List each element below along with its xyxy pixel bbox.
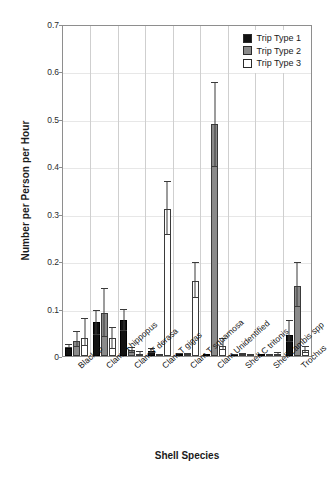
error-bar bbox=[96, 310, 97, 335]
error-bar-cap bbox=[101, 336, 108, 337]
bar-group bbox=[91, 26, 119, 356]
error-bar-cap bbox=[109, 327, 116, 328]
y-axis-title: Number per Person per Hour bbox=[20, 81, 31, 301]
error-bar-cap bbox=[93, 310, 100, 311]
x-axis-ticks: BlacklipClam H hippopusClam T derasaClam… bbox=[62, 358, 312, 428]
error-bar bbox=[214, 82, 215, 167]
error-bar bbox=[305, 346, 306, 353]
error-bar-cap bbox=[109, 348, 116, 349]
error-bar-cap bbox=[120, 330, 127, 331]
bar-group bbox=[118, 26, 146, 356]
error-bar-cap bbox=[211, 166, 218, 167]
bar-group bbox=[201, 26, 229, 356]
bar-group bbox=[173, 26, 201, 356]
error-bar-cap bbox=[101, 288, 108, 289]
legend-label: Trip Type 1 bbox=[256, 32, 301, 45]
legend-item-trip-type-3: Trip Type 3 bbox=[243, 57, 301, 70]
error-bar bbox=[104, 288, 105, 337]
error-bar-cap bbox=[302, 352, 309, 353]
legend-swatch-icon bbox=[243, 59, 252, 68]
bar-group bbox=[146, 26, 174, 356]
error-bar bbox=[68, 344, 69, 348]
bar-group bbox=[256, 26, 284, 356]
error-bar bbox=[297, 262, 298, 308]
error-bar-cap bbox=[73, 331, 80, 332]
error-bar-cap bbox=[120, 309, 127, 310]
error-bar-cap bbox=[294, 262, 301, 263]
error-bar bbox=[76, 331, 77, 347]
error-bar-cap bbox=[266, 355, 273, 356]
y-tick-label: 0.5 bbox=[31, 115, 59, 125]
error-bar-cap bbox=[156, 355, 163, 356]
bar-wrapper bbox=[156, 354, 163, 356]
error-bar bbox=[84, 318, 85, 346]
error-bar bbox=[159, 354, 160, 355]
bar bbox=[65, 348, 72, 356]
bar-wrapper bbox=[73, 341, 80, 356]
error-bar bbox=[195, 262, 196, 299]
error-bar-cap bbox=[73, 346, 80, 347]
error-bar-cap bbox=[211, 82, 218, 83]
error-bar-cap bbox=[286, 341, 293, 342]
legend-item-trip-type-1: Trip Type 1 bbox=[243, 32, 301, 45]
y-tick-mark bbox=[59, 167, 62, 168]
y-tick-label: 0.4 bbox=[31, 162, 59, 172]
legend: Trip Type 1 Trip Type 2 Trip Type 3 bbox=[239, 30, 305, 73]
legend-item-trip-type-2: Trip Type 2 bbox=[243, 45, 301, 58]
error-bar-cap bbox=[294, 306, 301, 307]
error-bar bbox=[123, 309, 124, 331]
error-bar bbox=[242, 353, 243, 355]
error-bar-cap bbox=[65, 347, 72, 348]
y-tick-mark bbox=[59, 72, 62, 73]
error-bar-cap bbox=[93, 334, 100, 335]
legend-label: Trip Type 2 bbox=[256, 45, 301, 58]
error-bar bbox=[112, 327, 113, 349]
error-bar-cap bbox=[192, 297, 199, 298]
y-tick-mark bbox=[59, 262, 62, 263]
bar-wrapper bbox=[211, 124, 218, 356]
y-tick-label: 0.3 bbox=[31, 210, 59, 220]
legend-label: Trip Type 3 bbox=[256, 57, 301, 70]
y-tick-label: 0.2 bbox=[31, 257, 59, 267]
error-bar bbox=[289, 320, 290, 342]
bar-group bbox=[63, 26, 91, 356]
bar-wrapper bbox=[239, 354, 246, 356]
legend-swatch-icon bbox=[243, 34, 252, 43]
bar-chart: Number per Person per Hour Trip Type 1 T… bbox=[0, 0, 327, 478]
x-axis-title: Shell Species bbox=[62, 450, 312, 461]
bar-group bbox=[228, 26, 256, 356]
error-bar bbox=[269, 354, 270, 355]
error-bar-cap bbox=[81, 318, 88, 319]
y-tick-mark bbox=[59, 215, 62, 216]
error-bar-cap bbox=[219, 349, 226, 350]
error-bar-cap bbox=[164, 181, 171, 182]
y-tick-mark bbox=[59, 310, 62, 311]
bar-wrapper bbox=[65, 348, 72, 356]
error-bar-cap bbox=[192, 262, 199, 263]
legend-swatch-icon bbox=[243, 46, 252, 55]
y-tick-label: 0 bbox=[31, 352, 59, 362]
y-tick-label: 0.7 bbox=[31, 20, 59, 30]
error-bar-cap bbox=[81, 345, 88, 346]
error-bar bbox=[167, 181, 168, 236]
y-tick-label: 0.6 bbox=[31, 67, 59, 77]
error-bar-cap bbox=[164, 234, 171, 235]
y-tick-mark bbox=[59, 25, 62, 26]
error-bar bbox=[187, 353, 188, 355]
bar-group bbox=[284, 26, 312, 356]
error-bar bbox=[277, 352, 278, 355]
y-tick-label: 0.1 bbox=[31, 305, 59, 315]
y-tick-mark bbox=[59, 120, 62, 121]
error-bar-cap bbox=[65, 344, 72, 345]
error-bar-cap bbox=[286, 320, 293, 321]
plot-area: Trip Type 1 Trip Type 2 Trip Type 3 bbox=[62, 25, 312, 357]
bar-groups bbox=[63, 26, 311, 356]
